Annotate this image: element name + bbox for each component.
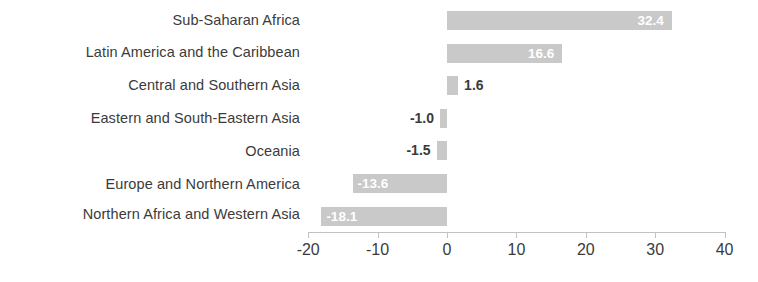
x-tick-mark-0 [308, 232, 309, 238]
plot-area: 32.4 16.6 1.6 -1.0 -1.5 -13.6 -18.1 -20 … [0, 0, 758, 232]
x-tick-label-1: -10 [348, 241, 408, 259]
bar-3 [440, 109, 447, 128]
x-tick-mark-6 [725, 232, 726, 238]
bar-4 [437, 141, 447, 160]
x-tick-label-2: 0 [417, 241, 477, 259]
x-tick-mark-3 [516, 232, 517, 238]
x-tick-mark-2 [447, 232, 448, 238]
x-tick-mark-4 [586, 232, 587, 238]
x-tick-label-3: 10 [486, 241, 546, 259]
bar-2 [447, 76, 458, 95]
bar-value-6: -18.1 [326, 207, 357, 226]
bar-value-4: -1.5 [399, 141, 431, 160]
bar-value-3: -1.0 [402, 109, 434, 128]
x-tick-label-4: 20 [556, 241, 616, 259]
bar-chart: Sub-Saharan Africa Latin America and the… [0, 0, 758, 282]
x-tick-mark-1 [378, 232, 379, 238]
bar-value-5: -13.6 [358, 174, 389, 193]
x-tick-mark-5 [655, 232, 656, 238]
bar-value-0: 32.4 [447, 11, 664, 30]
x-tick-label-5: 30 [625, 241, 685, 259]
x-tick-label-6: 40 [695, 241, 755, 259]
x-tick-label-0: -20 [278, 241, 338, 259]
bar-value-1: 16.6 [447, 44, 554, 63]
bar-value-2: 1.6 [464, 76, 483, 95]
